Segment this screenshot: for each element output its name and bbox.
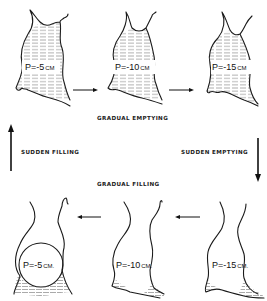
arrow-right-1	[73, 88, 98, 92]
vessel-top-2: P=-10CM	[108, 12, 162, 104]
arrow-left-2	[175, 215, 200, 219]
diagram-canvas: P=-5CM P=-10CM P=-15CM GRADUAL EMPTYING …	[0, 0, 267, 301]
pressure-label-bottom-3: P=-15CM.	[212, 260, 249, 270]
vessel-top-3: P=-15CM	[207, 12, 258, 106]
vessel-top-1: P=-5CM	[16, 10, 70, 106]
vessel-bottom-3: P=-15CM.	[205, 202, 264, 298]
arrow-right-2	[169, 88, 194, 92]
vessel-bottom-2: P=-10CM.	[112, 201, 164, 298]
label-gradual-emptying: GRADUAL EMPTYING	[97, 115, 168, 121]
arrow-left-1	[77, 215, 101, 219]
arrow-up-sudden-filling	[8, 124, 14, 171]
label-sudden-filling: SUDDEN FILLING	[21, 149, 79, 155]
vessel-bottom-1: P=-5CM.	[14, 198, 72, 296]
pressure-label-bottom-1: P=-5CM.	[23, 260, 55, 270]
pressure-label-bottom-2: P=-10CM.	[116, 260, 153, 270]
arrow-down-sudden-emptying	[255, 138, 261, 182]
label-sudden-emptying: SUDDEN EMPTYING	[181, 149, 248, 155]
label-gradual-filling: GRADUAL FILLING	[97, 181, 159, 187]
